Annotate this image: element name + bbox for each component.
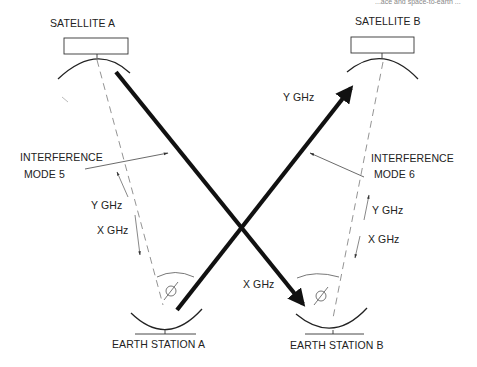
downlink-label: X GHz <box>243 278 274 290</box>
earth-station-b-dish <box>296 308 367 328</box>
stray-mark <box>62 97 68 102</box>
satellite-b <box>347 37 418 79</box>
mode5-label-line2: MODE 5 <box>24 168 65 180</box>
mode5-down-arrow <box>135 215 140 255</box>
satellite-a-label: SATELLITE A <box>50 17 115 29</box>
mode6-label-line1: INTERFERENCE <box>371 152 454 164</box>
link-earth-a-to-sat-b <box>177 88 351 310</box>
mode5-label-line1: INTERFERENCE <box>20 151 103 163</box>
mode6-label-line2: MODE 6 <box>374 168 415 180</box>
earth-station-b-feed-arc <box>297 274 339 278</box>
earth-station-b-label: EARTH STATION B <box>290 339 384 351</box>
diagram-canvas <box>0 0 477 367</box>
mode5-up-arrow <box>117 172 128 197</box>
uplink-label: Y GHz <box>283 91 314 103</box>
earth-station-b <box>296 274 367 334</box>
satellite-b-dish <box>347 59 418 79</box>
satellite-b-label: SATELLITE B <box>355 15 421 27</box>
mode6-down-arrow <box>355 236 360 258</box>
earth-station-a-dish <box>131 309 202 330</box>
earth-station-a-feed-arc <box>157 273 194 278</box>
mode6-down-label: X GHz <box>368 233 399 245</box>
mode5-up-label: Y GHz <box>91 199 122 211</box>
interference-path-a <box>97 60 163 305</box>
mode6-up-arrow <box>364 195 369 220</box>
satellite-b-body <box>351 37 414 53</box>
mode6-pointer <box>310 153 364 177</box>
earth-station-a <box>131 273 202 335</box>
earth-station-a-label: EARTH STATION A <box>112 338 205 350</box>
satellite-a-body <box>64 38 128 54</box>
mode5-down-label: X GHz <box>97 224 128 236</box>
mode6-up-label: Y GHz <box>372 204 403 216</box>
